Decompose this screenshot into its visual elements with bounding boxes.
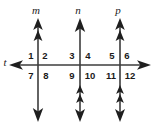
geometry-figure: m n p t 1 2 3 4 5 6 7 8 9 10 11 12 [0, 0, 156, 124]
vertical-line-m [33, 18, 43, 122]
label-line-p: p [114, 4, 121, 16]
angle-number-8: 8 [43, 70, 48, 81]
angle-number-9: 9 [69, 70, 74, 81]
angle-number-5: 5 [109, 50, 115, 61]
angle-number-11: 11 [106, 70, 117, 81]
angle-number-4: 4 [85, 50, 91, 61]
angle-number-12: 12 [125, 70, 136, 81]
label-line-t: t [3, 56, 7, 68]
angle-number-2: 2 [42, 50, 47, 61]
angle-number-1: 1 [28, 50, 34, 61]
angle-number-10: 10 [85, 70, 96, 81]
vertical-line-p [115, 18, 125, 122]
angle-number-6: 6 [124, 50, 129, 61]
label-line-m: m [32, 4, 40, 16]
label-line-n: n [75, 4, 81, 16]
figure-canvas: m n p t 1 2 3 4 5 6 7 8 9 10 11 12 [0, 0, 156, 124]
angle-number-7: 7 [28, 70, 33, 81]
vertical-line-n [75, 18, 85, 122]
angle-number-3: 3 [69, 50, 74, 61]
